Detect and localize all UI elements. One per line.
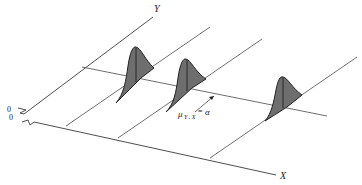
mu-subscript: Y . X <box>184 114 196 120</box>
diagram-canvas: Y X 0 0 μ Y . X = α <box>0 0 362 185</box>
mu-symbol: μ <box>177 109 183 119</box>
x-axis-label: X <box>279 170 287 181</box>
equals-sign: = <box>198 107 203 116</box>
bell-curve-3 <box>265 77 302 121</box>
x-axis-break <box>22 120 34 125</box>
alpha-value: α <box>205 107 210 117</box>
y-axis-label: Y <box>154 3 161 14</box>
origin-label-2: 0 <box>9 113 13 122</box>
bell-curve-2 <box>166 59 206 112</box>
x-axis <box>34 122 276 175</box>
regression-diagram: Y X 0 0 μ Y . X = α <box>0 0 362 185</box>
